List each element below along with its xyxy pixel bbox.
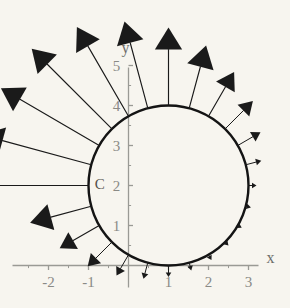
plot-canvas — [0, 0, 290, 308]
normal-vector — [225, 101, 253, 129]
y-axis-label: y — [122, 39, 130, 57]
normal-vector — [187, 46, 213, 109]
x-tick-label: 1 — [165, 273, 173, 290]
normal-vectors-group — [0, 22, 261, 279]
vector-arrowhead — [155, 28, 182, 50]
normal-vector — [249, 183, 257, 189]
vector-shaft — [3, 141, 92, 165]
y-tick-label: 1 — [113, 217, 121, 234]
y-tick-label: 3 — [113, 137, 121, 154]
vector-shaft — [145, 263, 148, 274]
vector-shaft — [88, 46, 129, 116]
normal-vector — [60, 226, 100, 249]
normal-vector — [32, 49, 112, 129]
x-tick-label: 2 — [205, 273, 213, 290]
vector-arrowhead — [255, 159, 261, 166]
vector-shaft — [189, 67, 200, 108]
vector-arrowhead — [60, 232, 78, 249]
vector-shaft — [96, 242, 112, 258]
vector-shaft — [246, 162, 256, 165]
vector-arrowhead — [30, 204, 54, 230]
x-tick-label: 3 — [245, 273, 253, 290]
vector-shaft — [121, 255, 129, 269]
vector-field-figure: -2-112312345 x y C — [0, 0, 290, 308]
normal-vector — [1, 88, 99, 146]
curve-label-c: C — [95, 175, 105, 192]
vector-arrowhead — [142, 272, 149, 278]
y-tick-label: 4 — [113, 97, 121, 114]
vector-arrowhead — [216, 72, 235, 92]
axes-group — [13, 66, 259, 288]
normal-vector — [246, 159, 262, 166]
vector-arrowhead — [76, 27, 100, 53]
y-tick-label: 2 — [113, 177, 121, 194]
y-tick-label: 5 — [113, 57, 121, 74]
vector-arrowhead — [187, 46, 213, 71]
x-tick-label: -1 — [82, 273, 95, 290]
vector-arrowhead — [1, 88, 27, 112]
normal-vector — [209, 72, 235, 116]
vector-shaft — [20, 99, 99, 145]
vector-shaft — [209, 255, 210, 256]
normal-vector — [155, 28, 182, 106]
normal-vector — [0, 172, 89, 199]
vector-arrowhead — [252, 183, 257, 189]
x-axis-label: x — [267, 249, 275, 267]
vector-shaft — [130, 43, 148, 108]
vector-shaft — [209, 87, 226, 116]
vector-shaft — [47, 64, 112, 129]
normal-vector — [88, 242, 112, 266]
normal-vector — [238, 132, 261, 146]
vector-shaft — [238, 137, 253, 146]
vector-shaft — [73, 226, 99, 241]
vector-shaft — [51, 206, 91, 217]
vector-arrowhead — [250, 132, 261, 142]
vector-arrowhead — [116, 266, 125, 276]
vector-shaft — [225, 111, 243, 129]
normal-vector — [30, 204, 91, 230]
x-tick-label: -2 — [42, 273, 55, 290]
